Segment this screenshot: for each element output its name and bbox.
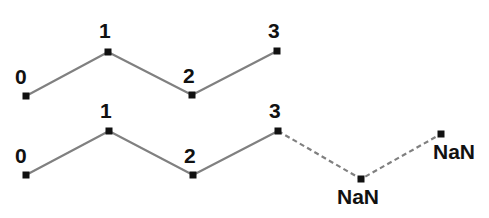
series-top-label-3: 3 (268, 20, 280, 41)
series-top-label-0: 0 (15, 66, 27, 87)
series-bottom-label-1: 1 (100, 100, 112, 121)
series-bottom-solid-line (26, 131, 278, 175)
series-bottom-marker-3 (275, 128, 282, 135)
series-bottom-marker-0 (23, 172, 30, 179)
series-bottom-marker-1 (106, 128, 113, 135)
series-top-marker-2 (189, 92, 196, 99)
series-bottom-label-2: 2 (184, 145, 196, 166)
chart-svg (0, 0, 489, 218)
series-top-solid-line (26, 51, 277, 96)
series-bottom-label-nan-2: NaN (433, 141, 475, 162)
series-bottom-dashed-line (278, 131, 441, 179)
series-bottom-marker-2 (190, 172, 197, 179)
chart-canvas: 0 1 2 3 0 1 2 3 NaN NaN (0, 0, 489, 218)
series-top-label-1: 1 (99, 20, 111, 41)
series-top-marker-1 (105, 49, 112, 56)
series-top-marker-3 (274, 48, 281, 55)
series-top-label-2: 2 (183, 65, 195, 86)
series-bottom-marker-nan-1 (358, 176, 365, 183)
series-top-marker-0 (23, 93, 30, 100)
series-bottom-label-3: 3 (269, 100, 281, 121)
series-bottom-label-nan-1: NaN (337, 186, 379, 207)
series-bottom-label-0: 0 (15, 145, 27, 166)
series-bottom-marker-nan-2 (438, 131, 445, 138)
